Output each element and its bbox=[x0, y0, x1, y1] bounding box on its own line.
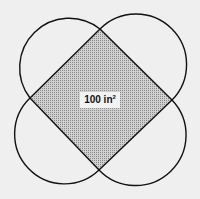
diagram: 100 in2 bbox=[0, 0, 200, 199]
area-label: 100 in2 bbox=[80, 92, 120, 108]
